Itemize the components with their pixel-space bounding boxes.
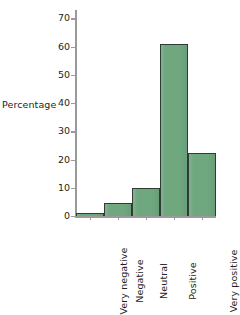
y-tick-mark — [71, 131, 75, 132]
y-tick-label: 0 — [64, 211, 70, 221]
x-tick-mark — [174, 216, 175, 220]
x-tick-label: Very negative — [84, 224, 96, 281]
y-tick-label: 50 — [58, 70, 70, 80]
x-tick-label: Positive — [168, 224, 180, 281]
y-axis-label: Percentage — [2, 99, 56, 110]
x-tick-label: Negative — [112, 224, 124, 281]
bar[interactable] — [132, 188, 160, 216]
y-tick-mark — [71, 18, 75, 19]
x-tick-label: Very positive — [196, 224, 208, 281]
y-tick-label: 20 — [58, 155, 70, 165]
y-tick-mark — [71, 47, 75, 48]
y-tick-mark — [71, 75, 75, 76]
x-tick-mark — [202, 216, 203, 220]
y-tick-label: 40 — [58, 98, 70, 108]
y-tick-label: 70 — [58, 13, 70, 23]
x-tick-mark — [118, 216, 119, 220]
y-tick-mark — [71, 103, 75, 104]
y-tick-mark — [71, 188, 75, 189]
bar[interactable] — [104, 203, 132, 216]
y-tick-label: 10 — [58, 183, 70, 193]
plot-area: 010203040506070 — [76, 10, 216, 216]
x-tick-mark — [90, 216, 91, 220]
y-tick-mark — [71, 216, 75, 217]
y-tick-label: 30 — [58, 126, 70, 136]
bar[interactable] — [160, 44, 188, 216]
bar[interactable] — [188, 153, 216, 216]
cropped-chart-title — [62, 0, 222, 4]
x-tick-label-text: Very positive — [228, 250, 239, 313]
y-tick-label: 60 — [58, 42, 70, 52]
y-axis-spine — [75, 10, 77, 217]
x-tick-label: Neutral — [140, 224, 152, 281]
x-tick-mark — [146, 216, 147, 220]
y-tick-mark — [71, 160, 75, 161]
